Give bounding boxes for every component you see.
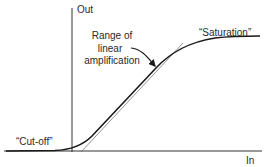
saturation-label: “Saturation” (199, 27, 251, 38)
transfer-curve-diagram: Out In Range of linear amplification “Sa… (0, 0, 265, 167)
x-axis-label: In (246, 155, 254, 166)
range-label-line3: amplification (84, 55, 140, 66)
y-axis-label: Out (77, 4, 93, 15)
cutoff-label: “Cut-off” (16, 136, 53, 147)
transfer-curve (6, 36, 260, 151)
range-label-line2: linear (98, 43, 123, 54)
range-label-line1: Range of (92, 30, 133, 41)
